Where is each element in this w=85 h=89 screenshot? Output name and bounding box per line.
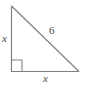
right-triangle-figure: x x 6 [0,0,85,89]
vertical-leg-label: x [2,33,7,44]
horizontal-leg-label: x [43,73,48,84]
hypotenuse-label: 6 [49,25,55,36]
right-angle-marker-icon [12,60,23,72]
